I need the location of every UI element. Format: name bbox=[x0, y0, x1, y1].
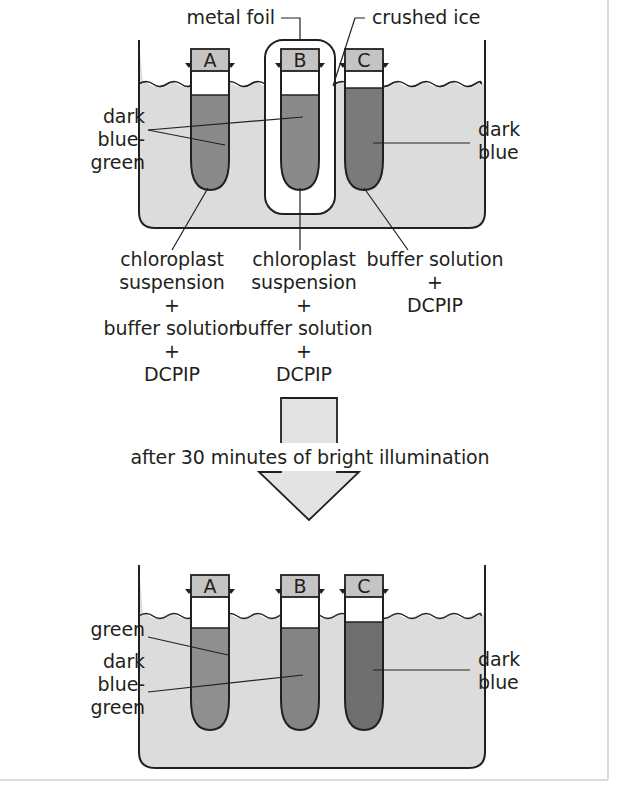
tube-a-letter: A bbox=[204, 49, 217, 71]
caption-c-line2: + bbox=[348, 271, 522, 294]
tube-a-after-letter: A bbox=[204, 575, 217, 597]
label-dark-blue-green-line1: dark bbox=[10, 105, 145, 128]
tube-b-after: B bbox=[275, 575, 325, 733]
arrow-caption: after 30 minutes of bright illumination bbox=[110, 446, 510, 469]
bottom-beaker-group: A B C bbox=[139, 565, 485, 768]
tube-b: B bbox=[275, 49, 325, 190]
label-bottom-dbg-line2: blue- bbox=[10, 673, 145, 696]
label-dark-blue-line2: blue bbox=[478, 141, 608, 164]
caption-c-line1: buffer solution bbox=[348, 248, 522, 271]
label-bottom-dbg-line3: green bbox=[10, 696, 145, 719]
caption-b-line5: + bbox=[224, 340, 384, 363]
tube-c-liquid bbox=[345, 88, 383, 190]
label-dark-blue-green-line3: green bbox=[10, 151, 145, 174]
tube-c-after-liquid bbox=[345, 622, 383, 733]
caption-b-line4: buffer solution bbox=[217, 317, 391, 340]
diagram-canvas: A B C bbox=[0, 0, 625, 797]
tube-b-liquid bbox=[281, 95, 319, 190]
tube-c-letter: C bbox=[357, 49, 370, 71]
label-green-a: green bbox=[10, 618, 145, 641]
label-bottom-dbg-line1: dark bbox=[10, 650, 145, 673]
label-metal-foil: metal foil bbox=[120, 6, 275, 29]
tube-b-letter: B bbox=[293, 49, 306, 71]
tube-c: C bbox=[339, 49, 389, 190]
tube-b-after-liquid bbox=[281, 628, 319, 733]
caption-b-line6: DCPIP bbox=[224, 363, 384, 386]
label-dark-blue-line1: dark bbox=[478, 118, 608, 141]
tube-c-after-letter: C bbox=[357, 575, 370, 597]
label-dark-blue-green-line2: blue- bbox=[10, 128, 145, 151]
caption-c-line3: DCPIP bbox=[348, 294, 522, 317]
label-bottom-dark-blue-line1: dark bbox=[478, 648, 608, 671]
top-beaker-group: A B C bbox=[139, 18, 485, 250]
tube-b-after-letter: B bbox=[293, 575, 306, 597]
leader-metal-foil bbox=[281, 18, 300, 41]
label-crushed-ice: crushed ice bbox=[372, 6, 542, 29]
tube-c-after: C bbox=[339, 575, 389, 733]
tube-a-after: A bbox=[185, 575, 235, 733]
tube-a: A bbox=[185, 49, 235, 190]
label-bottom-dark-blue-line2: blue bbox=[478, 671, 608, 694]
tube-a-after-liquid bbox=[191, 628, 229, 733]
